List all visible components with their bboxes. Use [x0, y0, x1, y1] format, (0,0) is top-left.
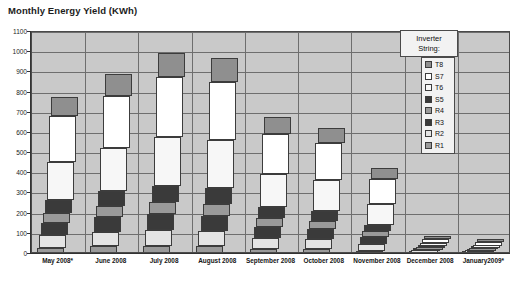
- bar-segment-t6[interactable]: [313, 180, 340, 211]
- legend-item-t6[interactable]: T6: [425, 82, 452, 94]
- bar-segment-t8[interactable]: [477, 239, 504, 242]
- y-axis-tick-label: 200: [16, 209, 27, 216]
- y-axis-tick-label: 800: [16, 88, 27, 95]
- bar-segment-r3[interactable]: [94, 217, 121, 232]
- legend-label: R1: [435, 141, 444, 150]
- bar-segment-r4[interactable]: [256, 218, 283, 227]
- legend-item-r4[interactable]: R4: [425, 105, 452, 117]
- y-axis-tick-label: 700: [16, 108, 27, 115]
- bar-segment-t6[interactable]: [100, 148, 127, 191]
- bar-segment-s7[interactable]: [369, 179, 396, 204]
- bar-segment-r4[interactable]: [362, 231, 389, 237]
- bar-segment-r2[interactable]: [252, 238, 279, 249]
- bar-segment-r3[interactable]: [201, 216, 228, 231]
- legend-item-s5[interactable]: S5: [425, 94, 452, 106]
- bar-segment-t6[interactable]: [260, 174, 287, 208]
- bar-segment-s5[interactable]: [98, 191, 125, 206]
- bar-segment-r1[interactable]: [90, 246, 117, 253]
- legend-title-line1: Inverter: [403, 34, 455, 44]
- bar-segment-s7[interactable]: [315, 143, 342, 180]
- bar-segment-s7[interactable]: [209, 82, 236, 140]
- bar-segment-s7[interactable]: [422, 239, 449, 243]
- x-axis-label: September 2008: [244, 257, 297, 266]
- bar-segment-t8[interactable]: [371, 168, 398, 178]
- bar-segment-t6[interactable]: [47, 162, 74, 200]
- bar-segment-r3[interactable]: [360, 237, 387, 244]
- bar-segment-t8[interactable]: [158, 53, 185, 77]
- x-axis-label: January2009*: [457, 257, 510, 266]
- legend-label: T6: [435, 83, 443, 92]
- bar-stack[interactable]: [85, 32, 138, 252]
- bar-segment-r4[interactable]: [309, 221, 336, 229]
- bar-segment-s5[interactable]: [45, 200, 72, 213]
- bar-segment-s5[interactable]: [364, 225, 391, 232]
- y-axis-tick-label: 900: [16, 68, 27, 75]
- bar-segment-r2[interactable]: [145, 230, 172, 246]
- bar-segment-r4[interactable]: [96, 206, 123, 218]
- legend-title-box: Inverter String:: [400, 30, 458, 57]
- legend-swatch-icon: [425, 142, 432, 149]
- bar-segment-r2[interactable]: [305, 239, 332, 249]
- x-axis-label: October 2008: [297, 257, 350, 266]
- bar-segment-s5[interactable]: [311, 211, 338, 221]
- bar-stack[interactable]: [32, 32, 85, 252]
- bar-segment-t8[interactable]: [318, 128, 345, 143]
- bar-segment-s7[interactable]: [262, 134, 289, 174]
- bar-segment-s7[interactable]: [156, 77, 183, 137]
- bar-segment-t6[interactable]: [154, 137, 181, 187]
- y-axis-tick-label: 1000: [13, 48, 27, 55]
- x-axis-label: December 2008: [404, 257, 457, 266]
- bar-segment-r2[interactable]: [198, 231, 225, 246]
- bar-stack[interactable]: [458, 32, 510, 252]
- bar-segment-r4[interactable]: [43, 213, 70, 223]
- legend-swatch-icon: [425, 96, 432, 103]
- bar-segment-r3[interactable]: [147, 214, 174, 230]
- y-axis-tick-label: 300: [16, 189, 27, 196]
- bar-stack[interactable]: [192, 32, 245, 252]
- bar-stack[interactable]: [245, 32, 298, 252]
- bar-segment-t8[interactable]: [264, 117, 291, 134]
- bar-segment-s5[interactable]: [258, 207, 285, 218]
- bar-segment-s7[interactable]: [103, 96, 130, 148]
- bar-segment-t6[interactable]: [207, 140, 234, 188]
- bar-segment-t8[interactable]: [424, 236, 451, 239]
- x-axis-label: June 2008: [84, 257, 137, 266]
- legend-item-r3[interactable]: R3: [425, 117, 452, 129]
- legend-title-line2: String:: [403, 44, 455, 54]
- bar-stack[interactable]: [138, 32, 191, 252]
- bar-segment-s7[interactable]: [475, 242, 502, 245]
- legend-item-r2[interactable]: R2: [425, 128, 452, 140]
- bar-segment-t8[interactable]: [211, 58, 238, 81]
- bar-segment-t8[interactable]: [105, 74, 132, 95]
- bar-segment-s5[interactable]: [205, 188, 232, 203]
- legend-item-s7[interactable]: S7: [425, 71, 452, 83]
- bar-segment-t6[interactable]: [420, 243, 447, 246]
- bar-segment-r2[interactable]: [92, 232, 119, 247]
- legend-label: R3: [435, 118, 444, 127]
- bar-segment-r2[interactable]: [358, 244, 385, 251]
- bar-segment-s7[interactable]: [49, 116, 76, 162]
- bar-segment-r1[interactable]: [196, 246, 223, 253]
- legend-label: S7: [435, 72, 444, 81]
- bar-stack[interactable]: [351, 32, 404, 252]
- legend-swatch-icon: [425, 130, 432, 137]
- legend-item-t8[interactable]: T8: [425, 59, 452, 71]
- legend-swatch-icon: [425, 61, 432, 68]
- bar-segment-r4[interactable]: [149, 202, 176, 215]
- y-axis-tick-label: 1100: [13, 28, 27, 35]
- bar-segment-r1[interactable]: [143, 246, 170, 253]
- x-axis-label: November 2008: [350, 257, 403, 266]
- bar-segment-r3[interactable]: [307, 229, 334, 239]
- bar-segment-s5[interactable]: [152, 186, 179, 202]
- y-axis-tick-label: 400: [16, 169, 27, 176]
- bar-stack[interactable]: [298, 32, 351, 252]
- y-axis-tick-label: 100: [16, 229, 27, 236]
- bar-segment-t6[interactable]: [367, 204, 394, 225]
- bar-segment-r4[interactable]: [203, 204, 230, 216]
- legend-label: T8: [435, 60, 443, 69]
- bar-segment-t8[interactable]: [51, 97, 78, 117]
- legend-item-r1[interactable]: R1: [425, 140, 452, 152]
- bar-segment-r3[interactable]: [41, 223, 68, 236]
- bar-segment-r3[interactable]: [254, 227, 281, 238]
- bar-segment-r2[interactable]: [39, 235, 66, 248]
